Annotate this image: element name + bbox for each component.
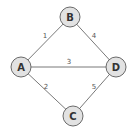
edge-weight-label: 2: [44, 83, 48, 91]
node-label: D: [112, 62, 120, 73]
node-d: D: [106, 57, 126, 77]
edge-weight-label: 3: [67, 58, 71, 66]
node-b: B: [60, 7, 80, 27]
node-label: A: [17, 62, 25, 73]
node-a: A: [11, 57, 31, 77]
nodes-layer: ABCD: [11, 7, 126, 126]
edge-weight-label: 4: [92, 32, 97, 40]
weighted-graph-diagram: 14325 ABCD: [0, 0, 133, 134]
edge-weight-label: 5: [92, 83, 96, 91]
edges-layer: [21, 17, 116, 116]
edge-weight-label: 1: [43, 32, 47, 40]
edge-a-b: [21, 17, 70, 67]
edge-a-c: [21, 67, 73, 116]
edge-labels-layer: 14325: [43, 32, 97, 91]
node-label: C: [69, 111, 76, 122]
node-label: B: [66, 12, 74, 23]
node-c: C: [63, 106, 83, 126]
